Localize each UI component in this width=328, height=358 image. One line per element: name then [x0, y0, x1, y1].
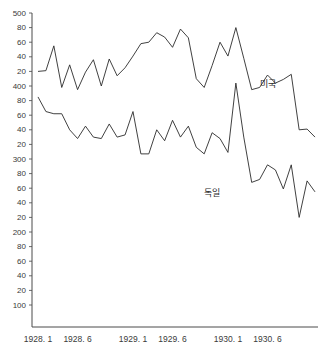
- data-series-group: [38, 28, 315, 218]
- y-tick-label: 60: [17, 111, 26, 120]
- series-annotations: 미국독일: [204, 79, 275, 198]
- y-tick-label: 20: [17, 286, 26, 295]
- y-tick-label: 80: [17, 169, 26, 178]
- chart-container: 5008060402040080604020300806040202008060…: [0, 0, 328, 358]
- y-tick-label: 20: [17, 140, 26, 149]
- y-tick-label: 60: [17, 257, 26, 266]
- series-label-미국: 미국: [260, 79, 276, 89]
- x-tick-label: 1929. 1: [119, 334, 148, 344]
- line-chart: 5008060402040080604020300806040202008060…: [0, 0, 328, 358]
- x-tick-label: 1928. 6: [63, 334, 92, 344]
- y-tick-label: 80: [17, 242, 26, 251]
- x-tick-label: 1930. 6: [253, 334, 282, 344]
- y-tick-label: 20: [17, 213, 26, 222]
- y-tick-label: 400: [13, 82, 27, 91]
- x-tick-label: 1930. 1: [214, 334, 243, 344]
- y-tick-label: 60: [17, 184, 26, 193]
- x-tick-label: 1929. 6: [158, 334, 187, 344]
- y-tick-label: 40: [17, 271, 26, 280]
- y-tick-label: 300: [13, 155, 27, 164]
- y-axis-ticks: 5008060402040080604020300806040202008060…: [13, 9, 32, 310]
- y-tick-label: 80: [17, 96, 26, 105]
- y-tick-label: 100: [13, 301, 27, 310]
- y-tick-label: 200: [13, 228, 27, 237]
- y-tick-label: 40: [17, 125, 26, 134]
- x-tick-label: 1928. 1: [24, 334, 53, 344]
- y-tick-label: 60: [17, 38, 26, 47]
- series-line-독일: [38, 83, 315, 217]
- y-tick-label: 40: [17, 52, 26, 61]
- y-tick-label: 80: [17, 23, 26, 32]
- y-tick-label: 500: [13, 9, 27, 18]
- x-axis-ticks: 1928. 11928. 61929. 11929. 61930. 11930.…: [24, 334, 282, 344]
- y-tick-label: 20: [17, 67, 26, 76]
- series-label-독일: 독일: [204, 188, 220, 198]
- y-tick-label: 40: [17, 198, 26, 207]
